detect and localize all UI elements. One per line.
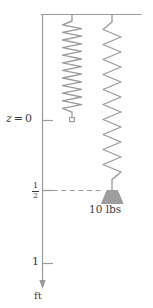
weight-label: 10 lbs (89, 204, 121, 215)
diagram-canvas (0, 0, 153, 308)
axis-label-origin-equals: = (12, 112, 25, 125)
spring-mass-diagram: z=0 1 2 1 ft 10 lbs (0, 0, 153, 308)
z-axis-arrowhead-icon (39, 280, 45, 289)
stretched-spring (103, 15, 121, 191)
axis-label-origin-value: 0 (25, 112, 32, 125)
hanging-weight-block (102, 191, 124, 204)
fraction-denominator: 2 (32, 192, 39, 200)
left-spring-coils (63, 21, 82, 112)
axis-label-one: 1 (32, 256, 39, 267)
axis-label-origin: z=0 (6, 113, 32, 124)
right-spring-coils (103, 22, 121, 180)
axis-unit-label: ft (34, 291, 42, 301)
fraction-numerator: 1 (32, 182, 39, 190)
axis-label-half: 1 2 (30, 182, 41, 201)
fraction-one-half: 1 2 (32, 182, 39, 201)
left-spring-hook-icon (70, 112, 75, 121)
axis-label-origin-variable: z (6, 112, 12, 125)
natural-length-spring (63, 15, 82, 122)
